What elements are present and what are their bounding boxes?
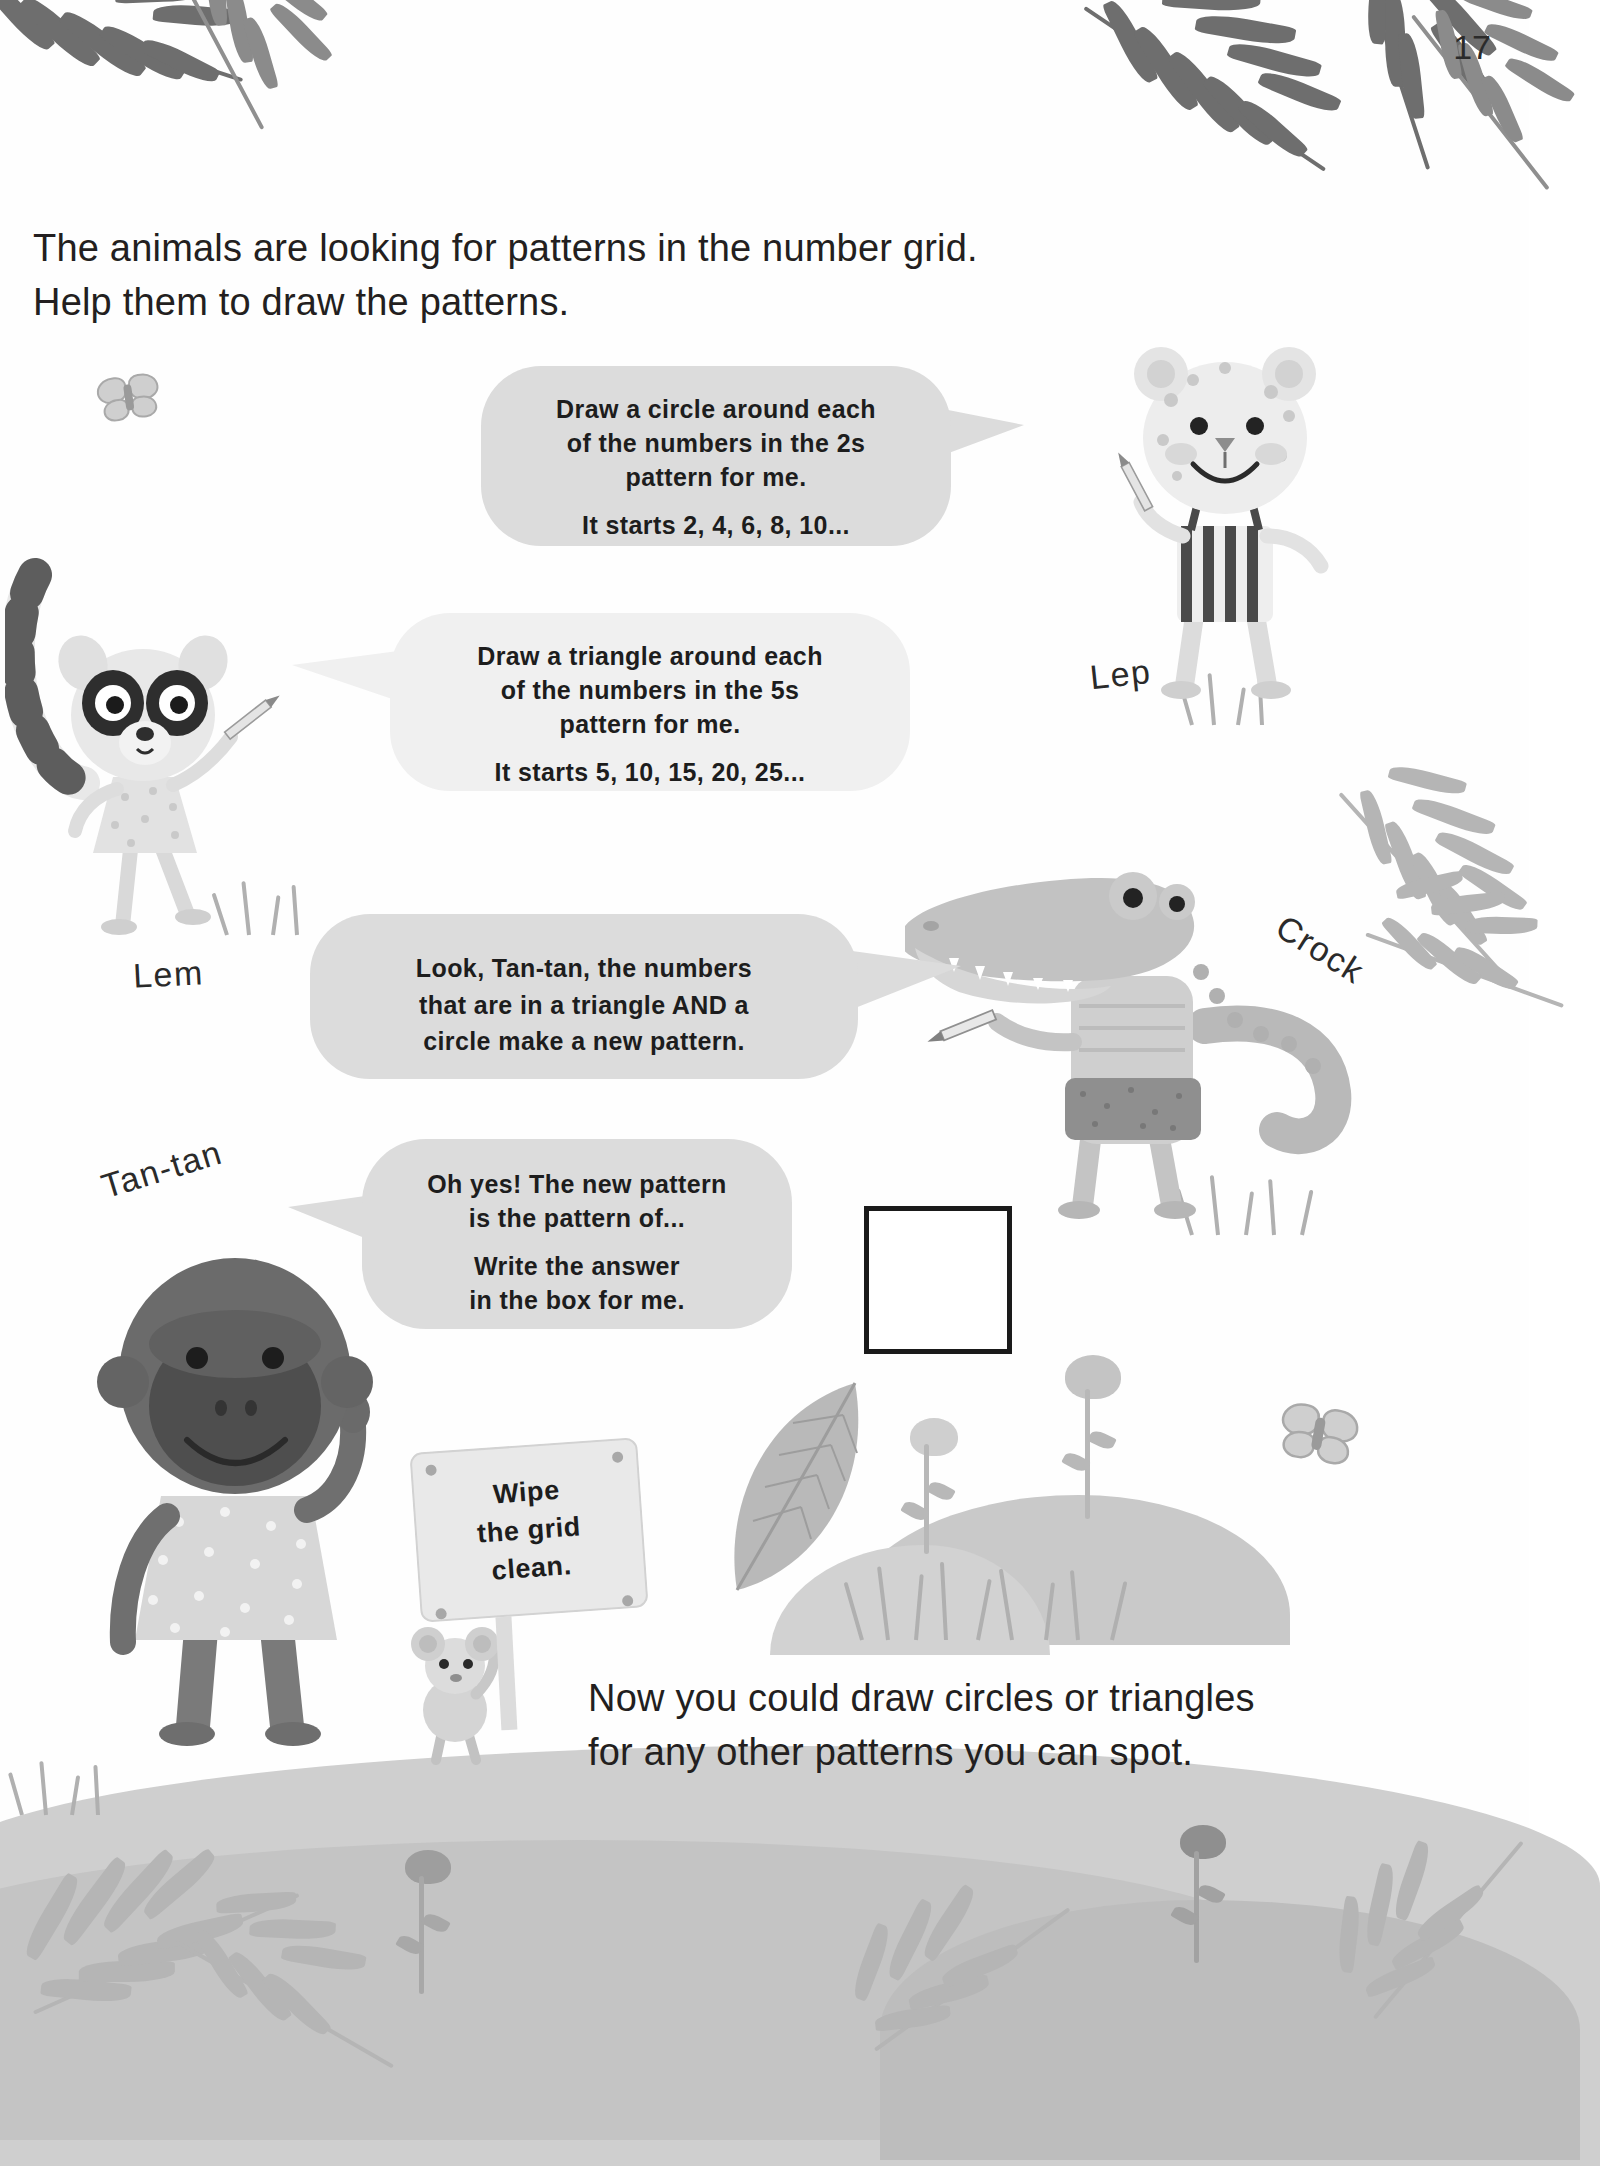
bush-front <box>770 1545 1050 1655</box>
leaf-cluster-bottom-middle <box>850 1900 1150 2100</box>
bubble-answer-line-1: Oh yes! The new pattern <box>362 1167 792 1201</box>
speech-bubble-tail-fives <box>292 651 398 701</box>
speech-bubble-fives-pattern: Draw a triangle around each of the numbe… <box>390 613 910 791</box>
intro-line-2: Help them to draw the patterns. <box>33 276 1093 330</box>
bubble-combined-line-3: circle make a new pattern. <box>310 1023 858 1060</box>
speech-bubble-answer-prompt: Oh yes! The new pattern is the pattern o… <box>362 1139 792 1329</box>
page-closing-text: Now you could draw circles or triangles … <box>588 1672 1368 1780</box>
bubble-twos-line-1: Draw a circle around each <box>481 392 951 426</box>
sign-rivets <box>420 1594 647 1610</box>
leaf-cluster-bottom-left <box>20 1870 440 2100</box>
speech-bubble-tail-combined <box>845 950 961 1012</box>
bubble-twos-line-3: pattern for me. <box>481 460 951 494</box>
leaf-cluster-top-left <box>0 0 420 180</box>
ground-hill <box>0 1746 1600 2166</box>
sign-line-3: clean. <box>490 1546 573 1590</box>
bubble-answer-line-4: in the box for me. <box>362 1283 792 1317</box>
page-intro-text: The animals are looking for patterns in … <box>33 222 1093 330</box>
grass-tuft-bush <box>860 1560 1160 1640</box>
bubble-combined-line-2: that are in a triangle AND a <box>310 987 858 1024</box>
speech-bubble-tail-answer <box>288 1195 372 1241</box>
bubble-fives-line-3: pattern for me. <box>390 707 910 741</box>
sign-line-1: Wipe <box>492 1470 561 1513</box>
bubble-combined-line-1: Look, Tan-tan, the numbers <box>310 950 858 987</box>
bush-back <box>850 1495 1290 1645</box>
wipe-grid-sign: Wipe the grid clean. <box>409 1437 648 1622</box>
bubble-fives-line-2: of the numbers in the 5s <box>390 673 910 707</box>
grass-tuft-tantan <box>20 1755 140 1815</box>
character-label-lep: Lep <box>1088 652 1153 697</box>
speech-bubble-twos-pattern: Draw a circle around each of the numbers… <box>481 366 951 546</box>
ground-hill-right <box>880 1900 1580 2160</box>
leaf-large-center <box>705 1375 895 1605</box>
intro-line-1: The animals are looking for patterns in … <box>33 222 1093 276</box>
bubble-answer-line-3: Write the answer <box>362 1249 792 1283</box>
speech-bubble-combined-pattern: Look, Tan-tan, the numbers that are in a… <box>310 914 858 1079</box>
character-mouse <box>400 1620 510 1770</box>
bubble-twos-line-2: of the numbers in the 2s <box>481 426 951 460</box>
bubble-fives-line-4: It starts 5, 10, 15, 20, 25... <box>390 755 910 789</box>
bubble-twos-line-4: It starts 2, 4, 6, 8, 10... <box>481 508 951 542</box>
character-label-tantan: Tan-tan <box>97 1133 227 1207</box>
page-number: 17 <box>1453 28 1491 67</box>
leaf-cluster-bottom-right <box>1330 1850 1590 2090</box>
character-lem-lemur <box>5 545 305 955</box>
bubble-fives-line-1: Draw a triangle around each <box>390 639 910 673</box>
ground-hill-back <box>0 1840 1280 2140</box>
closing-line-2: for any other patterns you can spot. <box>588 1726 1368 1780</box>
character-crock-crocodile <box>905 830 1375 1230</box>
leaf-cluster-top-right <box>1040 0 1580 230</box>
answer-box[interactable] <box>864 1206 1012 1354</box>
bubble-answer-line-2: is the pattern of... <box>362 1201 792 1235</box>
closing-line-1: Now you could draw circles or triangles <box>588 1672 1368 1726</box>
character-label-lem: Lem <box>132 953 205 996</box>
